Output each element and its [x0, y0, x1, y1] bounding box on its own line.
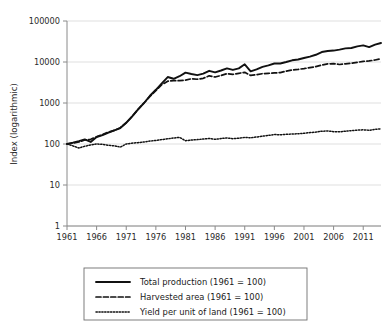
- y-tick-label: 10000: [34, 57, 60, 67]
- x-tick-label: 1981: [175, 232, 196, 242]
- chart-figure: 100000100001000100101 196119661971197619…: [0, 0, 389, 324]
- chart-legend: Total production (1961 = 100)Harvested a…: [84, 268, 307, 320]
- x-tick-label: 1961: [57, 232, 78, 242]
- x-tick-label: 2011: [353, 232, 374, 242]
- legend-label-1: Total production (1961 = 100): [139, 277, 266, 287]
- x-tick-label: 1996: [264, 232, 285, 242]
- legend-label-3: Yield per unit of land (1961 = 100): [139, 307, 286, 317]
- x-tick-label: 1976: [145, 232, 166, 242]
- legend-label-2: Harvested area (1961 = 100): [140, 292, 263, 302]
- x-tick-label: 1971: [116, 232, 137, 242]
- y-axis-title: Index (logarithmic): [9, 83, 19, 165]
- x-tick-label: 1966: [86, 232, 107, 242]
- x-tick-label: 2001: [294, 232, 315, 242]
- x-tick-label: 1991: [234, 232, 255, 242]
- x-tick-label: 1986: [205, 232, 226, 242]
- y-tick-label: 1: [55, 221, 60, 231]
- y-tick-label: 1000: [39, 98, 60, 108]
- x-tick-label: 2006: [323, 232, 344, 242]
- y-tick-label: 100: [44, 139, 60, 149]
- y-tick-label: 10: [50, 180, 60, 190]
- line-chart: 100000100001000100101 196119661971197619…: [0, 0, 389, 324]
- x-tick-labels: 1961196619711976198119861991199620012006…: [57, 232, 374, 242]
- y-tick-label: 100000: [29, 16, 60, 26]
